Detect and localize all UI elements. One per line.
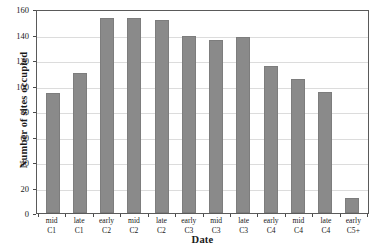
- x-axis-tick-label-line1: early: [257, 216, 284, 226]
- bar[interactable]: [100, 18, 114, 213]
- x-axis-tick-label-line1: mid: [120, 216, 147, 226]
- y-axis-tick-label: 100: [1, 83, 29, 91]
- bar[interactable]: [127, 18, 141, 213]
- y-axis-tick-label: 120: [1, 57, 29, 65]
- x-axis-tick-label-line1: late: [312, 216, 339, 226]
- bar[interactable]: [46, 93, 60, 213]
- bar-slot: [39, 11, 66, 213]
- bar-chart: Number of sites occupied 020406080100120…: [0, 0, 389, 250]
- bar[interactable]: [209, 40, 223, 213]
- bar[interactable]: [236, 37, 250, 213]
- bar[interactable]: [73, 73, 87, 213]
- x-axis-tick-label-line1: early: [93, 216, 120, 226]
- bar-slot: [175, 11, 202, 213]
- x-axis-title: Date: [36, 234, 369, 245]
- bar-slot: [148, 11, 175, 213]
- x-axis-tick-label-line1: mid: [38, 216, 65, 226]
- bar-slot: [94, 11, 121, 213]
- bar-slot: [312, 11, 339, 213]
- x-axis-tick-label-line1: mid: [203, 216, 230, 226]
- x-axis-tick-label-line1: late: [230, 216, 257, 226]
- y-axis-tick-label: 160: [1, 6, 29, 14]
- bar-slot: [284, 11, 311, 213]
- y-axis-tick-label: 20: [1, 185, 29, 193]
- bar[interactable]: [182, 36, 196, 213]
- bar[interactable]: [318, 92, 332, 213]
- bar[interactable]: [264, 66, 278, 213]
- bar-slot: [339, 11, 366, 213]
- x-axis-tick-label-line1: early: [340, 216, 367, 226]
- x-axis-tick-label-line1: early: [175, 216, 202, 226]
- bar-slot: [257, 11, 284, 213]
- plot-area: [36, 10, 369, 214]
- bar-slot: [203, 11, 230, 213]
- x-axis-tick-label-line1: late: [148, 216, 175, 226]
- bar[interactable]: [345, 198, 359, 213]
- bar[interactable]: [155, 20, 169, 213]
- bars-group: [37, 11, 368, 213]
- y-axis-tick-label: 40: [1, 159, 29, 167]
- x-axis-tick-label-line1: mid: [285, 216, 312, 226]
- y-axis-tick-label: 0: [1, 210, 29, 218]
- y-axis-tick-label: 140: [1, 32, 29, 40]
- y-axis-tick-label: 80: [1, 108, 29, 116]
- bar-slot: [66, 11, 93, 213]
- x-axis-tick-label-line1: late: [65, 216, 92, 226]
- y-axis-tick-label: 60: [1, 134, 29, 142]
- bar-slot: [121, 11, 148, 213]
- bar[interactable]: [291, 79, 305, 213]
- y-axis-tick-label-group: 020406080100120140160: [0, 0, 34, 250]
- bar-slot: [230, 11, 257, 213]
